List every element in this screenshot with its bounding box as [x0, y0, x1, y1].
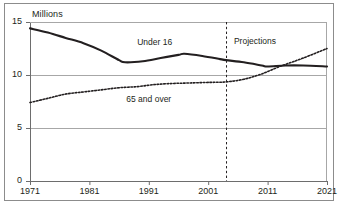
x-tick-label: 2001: [191, 186, 225, 196]
series-line-1: [30, 28, 327, 66]
y-tick-label: 10: [4, 69, 22, 79]
chart-figure: Millions 051015 197119811991200120112021…: [0, 0, 338, 208]
x-tick-label: 1971: [13, 186, 47, 196]
x-tick-label: 2011: [251, 186, 285, 196]
series-label-1: Under 16: [137, 37, 172, 47]
x-tick-label: 2021: [310, 186, 338, 196]
x-tick-label: 1981: [72, 186, 106, 196]
series-label-2: 65 and over: [126, 94, 171, 104]
x-tick-label: 1991: [132, 186, 166, 196]
y-tick-label: 15: [4, 16, 22, 26]
y-tick-label: 5: [4, 122, 22, 132]
y-tick-label: 0: [4, 175, 22, 185]
projections-divider-label: Projections: [234, 36, 276, 46]
